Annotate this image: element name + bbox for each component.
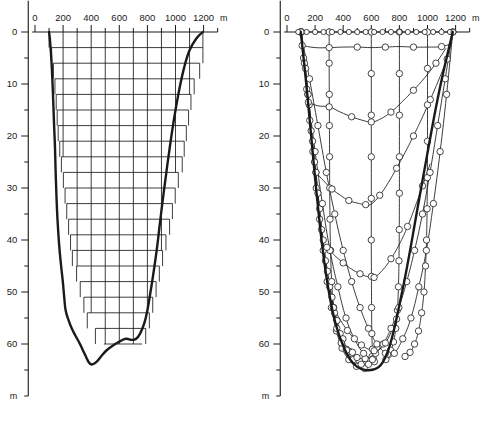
mesh-node-marker bbox=[365, 325, 371, 331]
mesh-node-marker bbox=[324, 244, 330, 250]
x-tick-label-right-6: 1200 bbox=[445, 12, 466, 23]
mesh-node-marker bbox=[395, 284, 401, 290]
figure-container: 020040060080010001200m0102030405060m 020… bbox=[0, 0, 504, 433]
mesh-node-marker bbox=[371, 274, 377, 280]
mesh-node-marker bbox=[357, 271, 363, 277]
y-tick-label-right-1: 10 bbox=[259, 78, 270, 89]
x-tick-label-right-4: 800 bbox=[391, 12, 407, 23]
mesh-node-marker bbox=[326, 104, 332, 110]
surface-node-marker bbox=[439, 29, 444, 34]
mesh-node-marker bbox=[382, 340, 388, 346]
mesh-node-marker bbox=[354, 44, 360, 50]
y-tick-label-right-4: 40 bbox=[259, 234, 270, 245]
x-tick-label-left-5: 1000 bbox=[165, 12, 186, 23]
x-tick-label-right-1: 200 bbox=[307, 12, 323, 23]
surface-node-marker bbox=[313, 29, 318, 34]
x-tick-label-left-1: 200 bbox=[55, 12, 71, 23]
y-tick-label-right-0: 0 bbox=[264, 26, 269, 37]
y-tick-label-left-4: 40 bbox=[7, 234, 18, 245]
surface-node-marker bbox=[422, 29, 427, 34]
mesh-node-marker bbox=[422, 263, 428, 269]
y-tick-label-left-0: 0 bbox=[12, 26, 17, 37]
mesh-node-marker bbox=[411, 247, 417, 253]
y-tick-label-right-3: 30 bbox=[259, 182, 270, 193]
mesh-node-marker bbox=[368, 304, 374, 310]
surface-node-marker bbox=[346, 29, 351, 34]
mesh-node-marker bbox=[340, 247, 346, 253]
mesh-node-marker bbox=[433, 60, 439, 66]
mesh-node-marker bbox=[360, 350, 366, 356]
mesh-node-marker bbox=[423, 237, 429, 243]
mesh-node-marker bbox=[368, 237, 374, 243]
mesh-node-marker bbox=[415, 328, 421, 334]
mesh-node-marker bbox=[351, 336, 357, 342]
mesh-node-marker bbox=[326, 44, 332, 50]
mesh-node-marker bbox=[443, 91, 449, 97]
mesh-node-marker bbox=[371, 348, 377, 354]
mesh-node-marker bbox=[427, 96, 433, 102]
mesh-node-marker bbox=[388, 109, 394, 115]
mesh-node-marker bbox=[344, 327, 350, 333]
y-tick-label-right-2: 20 bbox=[259, 130, 270, 141]
mesh-node-marker bbox=[328, 278, 334, 284]
mesh-node-marker bbox=[348, 114, 354, 120]
mesh-node-marker bbox=[393, 165, 399, 171]
mesh-node-marker bbox=[423, 247, 429, 253]
mesh-node-marker bbox=[396, 190, 402, 196]
mesh-node-marker bbox=[354, 354, 360, 360]
x-unit-label-left: m bbox=[220, 13, 228, 23]
surface-node-marker bbox=[338, 29, 343, 34]
x-tick-label-right-0: 0 bbox=[284, 12, 289, 23]
surface-node-marker bbox=[363, 29, 368, 34]
mesh-node-marker bbox=[346, 197, 352, 203]
mesh-node-marker bbox=[368, 119, 374, 125]
x-tick-label-left-0: 0 bbox=[32, 12, 37, 23]
mesh-node-marker bbox=[427, 169, 433, 175]
y-unit-label-left: m bbox=[10, 391, 18, 401]
x-tick-label-left-6: 1200 bbox=[193, 12, 214, 23]
mesh-node-marker bbox=[327, 216, 333, 222]
mesh-node-marker bbox=[410, 133, 416, 139]
mesh-node-marker bbox=[424, 206, 430, 212]
mesh-node-marker bbox=[340, 260, 346, 266]
mesh-node-marker bbox=[348, 278, 354, 284]
x-tick-label-left-3: 600 bbox=[111, 12, 127, 23]
y-tick-label-right-5: 50 bbox=[259, 286, 270, 297]
mesh-node-marker bbox=[326, 91, 332, 97]
mesh-node-marker bbox=[357, 304, 363, 310]
surface-node-marker bbox=[304, 29, 309, 34]
mesh-node-marker bbox=[323, 169, 329, 175]
mesh-node-marker bbox=[343, 315, 349, 321]
mesh-node-marker bbox=[349, 349, 355, 355]
mesh-node-marker bbox=[377, 192, 383, 198]
mesh-node-marker bbox=[396, 70, 402, 76]
mesh-node-marker bbox=[362, 201, 368, 207]
mesh-node-marker bbox=[368, 195, 374, 201]
mesh-node-marker bbox=[430, 200, 436, 206]
x-tick-label-left-2: 400 bbox=[83, 12, 99, 23]
mesh-node-marker bbox=[326, 122, 332, 128]
mesh-node-marker bbox=[396, 112, 402, 118]
mesh-node-marker bbox=[410, 87, 416, 93]
mesh-node-marker bbox=[396, 226, 402, 232]
mesh-node-marker bbox=[368, 70, 374, 76]
mesh-node-marker bbox=[368, 154, 374, 160]
x-tick-label-right-3: 600 bbox=[363, 12, 379, 23]
surface-node-marker bbox=[380, 29, 385, 34]
mesh-node-marker bbox=[418, 310, 424, 316]
mesh-node-marker bbox=[369, 356, 375, 362]
surface-node-marker bbox=[321, 29, 326, 34]
mesh-node-marker bbox=[404, 223, 410, 229]
mesh-node-marker bbox=[315, 122, 321, 128]
x-tick-label-right-2: 400 bbox=[335, 12, 351, 23]
mesh-node-marker bbox=[319, 200, 325, 206]
mesh-node-marker bbox=[437, 148, 443, 154]
x-tick-label-right-5: 1000 bbox=[417, 12, 438, 23]
mesh-node-marker bbox=[326, 154, 332, 160]
surface-node-marker bbox=[397, 29, 402, 34]
surface-node-marker bbox=[431, 29, 436, 34]
surface-node-marker bbox=[329, 29, 334, 34]
mesh-node-marker bbox=[400, 336, 406, 342]
mesh-node-marker bbox=[408, 315, 414, 321]
mesh-node-marker bbox=[396, 258, 402, 264]
